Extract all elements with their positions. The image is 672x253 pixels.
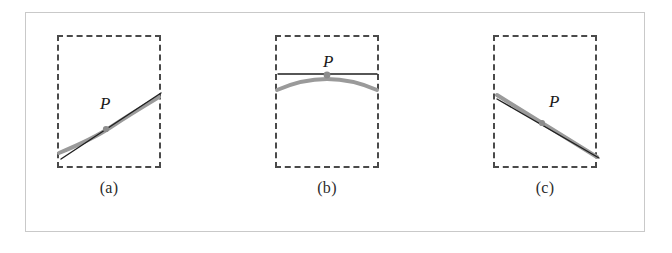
panel-c-graph: [487, 35, 603, 168]
panel-b-curve: [277, 79, 377, 90]
panel-b-p-label: P: [323, 53, 333, 70]
panel-a: P: [57, 35, 161, 168]
panel-c-point-p: [539, 120, 545, 126]
panel-a-point-p: [103, 126, 109, 132]
panel-c-p-label: P: [549, 93, 559, 110]
panel-a-caption: (a): [57, 179, 161, 197]
panel-b-point-p: [324, 72, 331, 79]
panel-c: P: [493, 35, 597, 168]
panel-c-tangent-line: [497, 99, 599, 158]
panel-c-caption: (c): [493, 179, 597, 197]
panel-a-p-label: P: [100, 95, 110, 112]
figure-frame: P (a) P (b) P (c): [25, 12, 645, 232]
panel-a-tangent-line: [61, 93, 161, 159]
panel-b-caption: (b): [275, 179, 379, 197]
panel-b: P: [275, 35, 379, 168]
